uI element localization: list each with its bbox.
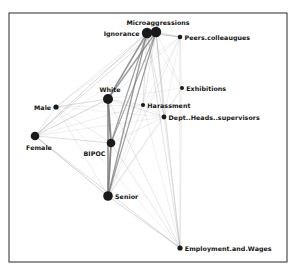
graph-edge — [35, 136, 111, 143]
graph-edge — [56, 33, 147, 107]
graph-edge — [35, 107, 56, 136]
graph-edge — [156, 32, 180, 248]
graph-node-employment[interactable] — [177, 245, 182, 250]
graph-edge — [180, 37, 182, 88]
graph-edge — [108, 196, 180, 248]
graph-edge — [35, 32, 156, 136]
graph-edge — [56, 107, 111, 143]
graph-edge — [108, 33, 147, 196]
graph-edge — [111, 143, 180, 248]
graph-node-peers[interactable] — [178, 35, 183, 40]
graph-node-male[interactable] — [53, 104, 58, 109]
graph-node-white[interactable] — [103, 94, 113, 104]
graph-node-ignorance[interactable] — [142, 28, 152, 38]
graph-edge — [35, 136, 108, 196]
graph-edge — [164, 37, 180, 117]
graph-node-female[interactable] — [31, 132, 40, 141]
graph-edge — [108, 32, 156, 99]
graph-node-deptheads[interactable] — [162, 115, 167, 120]
network-graph-figure: IgnoranceMicroaggressionsPeers.colleaugu… — [0, 0, 296, 273]
graph-edge — [108, 33, 147, 99]
graph-edge — [164, 88, 182, 117]
graph-edge — [108, 88, 182, 196]
graph-edge — [143, 37, 180, 105]
graph-node-bipoc[interactable] — [107, 139, 116, 148]
graph-node-microaggressions[interactable] — [151, 27, 161, 37]
graph-node-harassment[interactable] — [141, 103, 145, 107]
graph-canvas[interactable] — [0, 0, 296, 273]
graph-node-senior[interactable] — [103, 191, 113, 201]
graph-edge — [147, 33, 180, 248]
graph-edge — [56, 107, 108, 196]
graph-edge — [108, 99, 180, 248]
graph-node-exhibitions[interactable] — [180, 86, 184, 90]
graph-edge — [108, 105, 143, 196]
graph-edge — [180, 88, 182, 248]
graph-edge — [164, 117, 180, 248]
